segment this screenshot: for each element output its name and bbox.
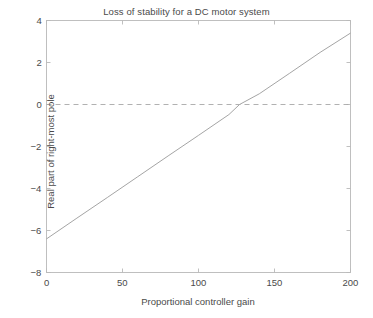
x-tick-label-3: 150 (267, 277, 283, 288)
y-tick-label-2: −4 (31, 183, 42, 194)
y-tick-label-5: 2 (37, 57, 42, 68)
y-tick-label-4: 0 (37, 99, 42, 110)
x-tick-label-4: 200 (343, 277, 359, 288)
x-tick-label-2: 100 (191, 277, 207, 288)
x-tick-label-1: 50 (117, 277, 128, 288)
y-axis-label: Real part of right-most pole (45, 62, 56, 242)
series-pole-trace (47, 33, 351, 239)
y-tick-label-3: −2 (31, 141, 42, 152)
plot-box (47, 21, 351, 273)
x-axis-label: Proportional controller gain (46, 296, 350, 307)
y-tick-label-6: 4 (37, 15, 42, 26)
plot-area (0, 0, 373, 318)
x-tick-label-0: 0 (44, 277, 49, 288)
figure-canvas: Loss of stability for a DC motor system … (0, 0, 373, 318)
y-tick-label-0: −8 (31, 267, 42, 278)
y-tick-label-1: −6 (31, 225, 42, 236)
